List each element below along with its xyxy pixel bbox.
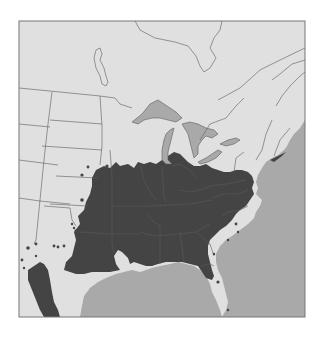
range-map: Species distribution range map — eastern… — [0, 0, 323, 337]
map-svg — [0, 0, 323, 337]
